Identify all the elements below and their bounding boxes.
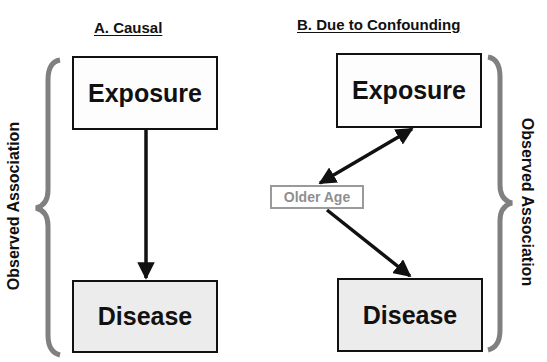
confounder-box: Older Age xyxy=(270,185,364,209)
panel-b-disease-label: Disease xyxy=(363,301,458,330)
panel-a-title: A. Causal xyxy=(94,19,162,36)
panel-b-observed-association-label: Observed Association xyxy=(518,112,536,292)
panel-b-disease-box: Disease xyxy=(337,278,483,352)
confounder-disease-arrow xyxy=(327,210,410,276)
panel-a-exposure-box: Exposure xyxy=(72,56,218,130)
panel-a-disease-box: Disease xyxy=(72,280,218,353)
right-brace-icon xyxy=(488,57,512,350)
confounder-exposure-arrow xyxy=(320,129,412,183)
panel-a-exposure-label: Exposure xyxy=(88,79,202,108)
panel-a-disease-label: Disease xyxy=(98,302,193,331)
left-brace-icon xyxy=(36,60,60,355)
panel-b-exposure-label: Exposure xyxy=(352,76,466,105)
panel-b-exposure-box: Exposure xyxy=(336,53,482,128)
confounder-label: Older Age xyxy=(284,189,350,205)
panel-a-observed-association-label: Observed Association xyxy=(5,116,23,296)
panel-b-title: B. Due to Confounding xyxy=(297,16,460,33)
